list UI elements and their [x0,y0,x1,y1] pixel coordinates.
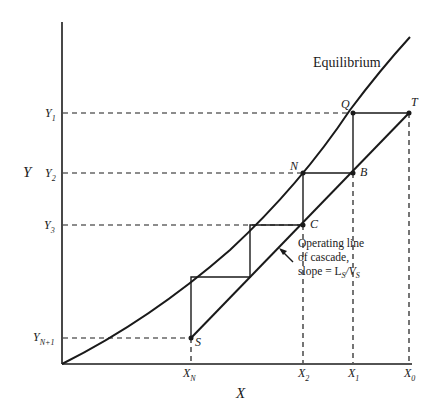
y-tick-Y3: Y3 [44,218,55,235]
operating-line-label-1: Operating line [298,237,364,250]
point-N [301,171,306,176]
equilibrium-curve [62,37,410,364]
x-tick-XN: XN [182,366,196,383]
y-axis-title: Y [23,164,33,180]
label-T: T [411,95,419,109]
x-axis-title: X [235,385,246,401]
label-B: B [360,165,368,179]
label-Q: Q [341,97,350,111]
x-tick-X1: X1 [347,366,359,383]
point-B [351,171,356,176]
y-tick-Y2: Y2 [45,166,56,183]
operating-line-label-2: of cascade, [298,251,349,264]
label-S: S [195,335,201,349]
x-tick-X0: X0 [403,366,415,383]
point-T [407,111,412,116]
operating-line-arrow [279,248,293,262]
equilibrium-label: Equilibrium [313,55,381,70]
operating-line-label-3: slope = LS/VS [298,265,360,280]
point-S [189,336,194,341]
label-N: N [289,159,299,173]
y-tick-Y1: Y1 [45,106,56,123]
point-C [301,223,306,228]
x-tick-X2: X2 [297,366,309,383]
diagram-canvas: Q T N B C S Equilibrium Operating line o… [0,0,439,417]
label-C: C [310,217,319,231]
point-Q [351,111,356,116]
y-tick-YN1: YN+1 [33,330,54,347]
